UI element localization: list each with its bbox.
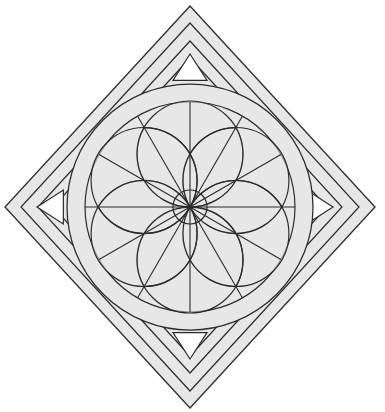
diagram-canvas [0,0,385,412]
rosette-medallion-figure [0,0,385,412]
